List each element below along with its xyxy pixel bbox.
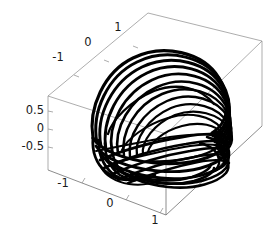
label-z-05: 0.5 — [26, 103, 44, 117]
label-front-minus1: -1 — [57, 176, 68, 190]
label-front-1: 1 — [151, 213, 158, 227]
plot-canvas: -1 0 1 0.5 0 -0.5 -1 0 1 — [0, 0, 277, 232]
label-back-1: 1 — [114, 20, 121, 34]
parametric-plot-figure: -1 0 1 0.5 0 -0.5 -1 0 1 — [0, 0, 277, 232]
label-z-minus05: -0.5 — [22, 139, 44, 153]
label-back-0: 0 — [84, 35, 91, 49]
label-back-minus1: -1 — [52, 50, 63, 64]
label-front-0: 0 — [106, 196, 113, 210]
label-z-0: 0 — [37, 121, 44, 135]
